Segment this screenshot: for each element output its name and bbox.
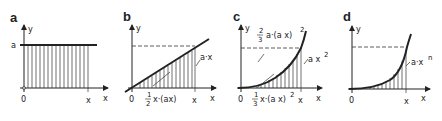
panel-b-x-tick-label: x	[192, 95, 197, 105]
panel-c-upper-leader	[258, 54, 264, 62]
panel-d-y-label: y	[356, 24, 361, 34]
panel-b-area-frac-num: 1	[147, 91, 151, 99]
panel-c: c y 2 3 a·(a x) 2 a x 2	[233, 9, 328, 108]
panel-c-lower-frac-den: 3	[253, 100, 257, 108]
panel-a: a y a 0 x x	[10, 10, 108, 105]
panel-c-origin-label: 0	[238, 94, 243, 104]
panel-a-origin-label: 0	[21, 94, 26, 104]
panel-c-upper-frac-den: 3	[258, 36, 262, 44]
figure-canvas: a y a 0 x x b	[0, 0, 442, 121]
panel-a-x-axis-label: x	[103, 93, 108, 103]
panel-b-origin-label: 0	[129, 94, 134, 104]
panel-c-upper-frac-num: 2	[259, 27, 263, 35]
panel-a-letter: a	[10, 10, 18, 25]
panel-c-y-label: y	[245, 23, 250, 33]
panel-d-curve-exp: n	[428, 54, 432, 62]
panel-d-letter: d	[343, 9, 351, 24]
panel-c-upper-area-label: a·(a x)	[266, 30, 292, 40]
panel-a-a-label: a	[11, 40, 16, 50]
panel-d-x-tick-label: x	[404, 96, 409, 106]
panel-d: d y a·x n 0 x x	[343, 9, 432, 106]
panel-c-x-tick-label: x	[298, 95, 303, 105]
panel-b-x-axis-label: x	[210, 93, 215, 103]
panel-a-y-label: y	[28, 24, 33, 34]
panel-b-area-label: x·(ax)	[153, 94, 176, 104]
panel-d-curve-leader	[406, 62, 410, 66]
panel-c-letter: c	[233, 9, 240, 24]
panel-d-curve-label: a·x	[411, 57, 424, 67]
panel-b-letter: b	[123, 9, 131, 24]
panel-c-lower-area-label: x·(a x)	[260, 94, 286, 104]
panel-b-curve-label: a·x	[200, 52, 213, 62]
panel-d-origin-label: 0	[349, 95, 354, 105]
panel-b-y-label: y	[136, 23, 141, 33]
panel-c-upper-exp: 2	[300, 26, 304, 34]
panel-c-curve-exp: 2	[324, 51, 328, 59]
panel-a-x-tick-label: x	[86, 95, 91, 105]
panel-b: b y a·x 0 1 2 x·(ax) x	[123, 9, 216, 108]
panel-b-area-frac-den: 2	[146, 100, 150, 108]
panel-a-hatch	[28, 45, 88, 92]
panel-b-hatch	[140, 48, 195, 92]
panel-c-lower-exp: 2	[290, 91, 294, 99]
panel-c-curve-label: a x	[308, 54, 321, 64]
panel-c-lower-frac-num: 1	[254, 91, 258, 99]
panel-d-x-axis-label: x	[421, 93, 426, 103]
panel-b-area-leader	[153, 72, 170, 86]
panel-c-x-axis-label: x	[316, 93, 321, 103]
